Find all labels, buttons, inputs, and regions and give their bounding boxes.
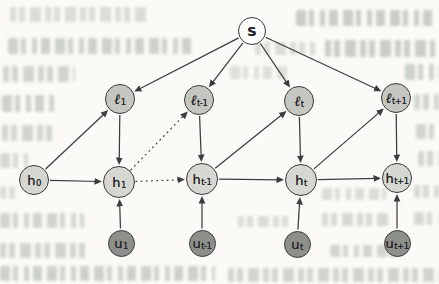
node-label-base: S	[247, 25, 256, 38]
node-label-base: u	[385, 237, 393, 250]
node-l1: ℓ1	[105, 84, 135, 114]
node-label-base: u	[192, 237, 200, 250]
node-s: S	[238, 17, 266, 45]
node-label-subscript: t	[301, 100, 304, 109]
node-label-base: h	[192, 173, 200, 186]
node-label-base: h	[112, 176, 120, 189]
node-ut1: ut+1	[384, 230, 411, 257]
node-label-subscript: 1	[121, 98, 126, 107]
node-lt1: ℓt+1	[381, 83, 411, 113]
scanned-figure-page: Sℓ1ℓt-1ℓtℓt+1h0h1ht-1htht+1u1ut-1utut+1	[0, 0, 439, 284]
node-u1: u1	[108, 230, 135, 257]
node-h1: h1	[103, 166, 135, 198]
node-ht: ht	[285, 164, 317, 196]
node-label-subscript: t	[300, 243, 303, 252]
node-label-subscript: t-1	[201, 242, 211, 251]
node-label-base: ℓ	[114, 92, 120, 106]
node-ht_1: ht-1	[186, 163, 218, 195]
node-label-subscript: t+1	[392, 97, 406, 106]
node-label-base: ℓ	[294, 94, 300, 108]
node-label-subscript: t	[304, 179, 307, 188]
node-label-base: h	[295, 174, 303, 187]
node-ut_1: ut-1	[189, 230, 216, 257]
node-label-subscript: 1	[121, 181, 126, 190]
node-ht1: ht+1	[382, 163, 412, 193]
node-label-base: ℓ	[386, 91, 392, 105]
node-label-base: ℓ	[191, 93, 197, 107]
node-ut: ut	[284, 231, 311, 258]
node-label-subscript: 0	[36, 179, 41, 188]
node-label-subscript: t-1	[197, 99, 207, 108]
node-label-subscript: t+1	[394, 177, 408, 186]
node-label-subscript: 1	[123, 242, 128, 251]
node-label-base: u	[291, 238, 299, 251]
node-label-subscript: t+1	[394, 242, 408, 251]
node-label-subscript: t-1	[201, 178, 211, 187]
node-label-base: h	[27, 174, 35, 187]
node-label-base: h	[385, 172, 393, 185]
node-layer: Sℓ1ℓt-1ℓtℓt+1h0h1ht-1htht+1u1ut-1utut+1	[0, 0, 439, 284]
node-h0: h0	[19, 165, 49, 195]
node-label-base: u	[114, 237, 122, 250]
node-lt: ℓt	[284, 86, 314, 116]
node-lt_1: ℓt-1	[184, 85, 214, 115]
